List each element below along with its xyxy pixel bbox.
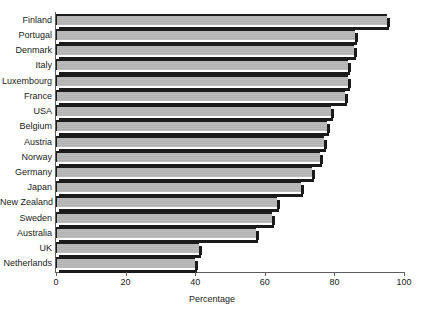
- bar: [56, 59, 348, 70]
- category-label: Italy: [0, 60, 52, 71]
- x-tick-label: 40: [190, 277, 200, 287]
- bar: [56, 212, 272, 223]
- bar: [56, 29, 355, 40]
- y-axis-category-labels: FinlandPortugalDenmarkItalyLuxembourgFra…: [0, 13, 54, 272]
- category-label: Portugal: [0, 30, 52, 41]
- category-label: Germany: [0, 167, 52, 178]
- category-label: France: [0, 91, 52, 102]
- x-tick-label: 20: [121, 277, 131, 287]
- bar: [56, 105, 331, 116]
- category-label: USA: [0, 106, 52, 117]
- category-label: Finland: [0, 15, 52, 26]
- bar-chart: FinlandPortugalDenmarkItalyLuxembourgFra…: [0, 0, 424, 319]
- x-tick-label: 80: [329, 277, 339, 287]
- x-tick: [195, 272, 196, 276]
- category-label: Austria: [0, 137, 52, 148]
- bar: [56, 166, 312, 177]
- x-tick: [404, 272, 405, 276]
- category-label: Denmark: [0, 45, 52, 56]
- x-tick-label: 100: [396, 277, 411, 287]
- bar: [56, 227, 256, 238]
- bar: [56, 242, 199, 253]
- category-label: Norway: [0, 152, 52, 163]
- x-tick-label: 0: [53, 277, 58, 287]
- bar: [56, 120, 327, 131]
- bar: [56, 136, 324, 147]
- category-label: Sweden: [0, 213, 52, 224]
- category-label: Australia: [0, 228, 52, 239]
- x-tick: [265, 272, 266, 276]
- bar: [56, 257, 195, 268]
- x-tick: [56, 272, 57, 276]
- bar: [56, 14, 387, 25]
- bar: [56, 181, 301, 192]
- plot-area: [56, 13, 404, 272]
- bar: [56, 196, 277, 207]
- x-tick-label: 60: [260, 277, 270, 287]
- bar: [56, 151, 320, 162]
- bar-series: [56, 13, 404, 272]
- category-label: New Zealand: [0, 197, 52, 208]
- category-label: Netherlands: [0, 258, 52, 269]
- category-label: UK: [0, 243, 52, 254]
- x-tick: [126, 272, 127, 276]
- category-label: Belgium: [0, 121, 52, 132]
- bar: [56, 44, 354, 55]
- x-axis-title: Percentage: [0, 294, 424, 304]
- category-label: Japan: [0, 182, 52, 193]
- x-tick: [334, 272, 335, 276]
- bar: [56, 90, 345, 101]
- bar: [56, 75, 348, 86]
- chart-title-clipped: [0, 0, 424, 7]
- category-label: Luxembourg: [0, 76, 52, 87]
